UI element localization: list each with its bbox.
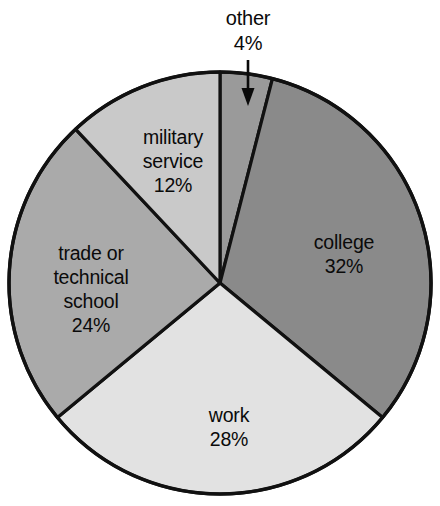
slice-value-trade-or-technical-school: 24%	[72, 314, 110, 336]
slice-value-work: 28%	[210, 428, 248, 450]
slice-label-military-line1: military	[143, 126, 204, 148]
slice-label-trade-line2: technical	[53, 266, 128, 288]
slice-label-trade-line3: school	[63, 290, 118, 312]
slice-label-military-line2: service	[143, 150, 203, 172]
slice-value-military-service: 12%	[154, 174, 192, 196]
slice-label-trade-line1: trade or	[58, 242, 124, 264]
slice-label-other: other	[226, 7, 271, 29]
slice-value-other: 4%	[234, 32, 263, 54]
slice-value-college: 32%	[325, 255, 363, 277]
pie-chart: other 4% college 32% work 28% trade or t…	[0, 0, 440, 506]
pie-chart-canvas: other 4% college 32% work 28% trade or t…	[0, 0, 440, 506]
slice-label-work: work	[208, 404, 250, 426]
slice-label-college: college	[314, 231, 374, 253]
